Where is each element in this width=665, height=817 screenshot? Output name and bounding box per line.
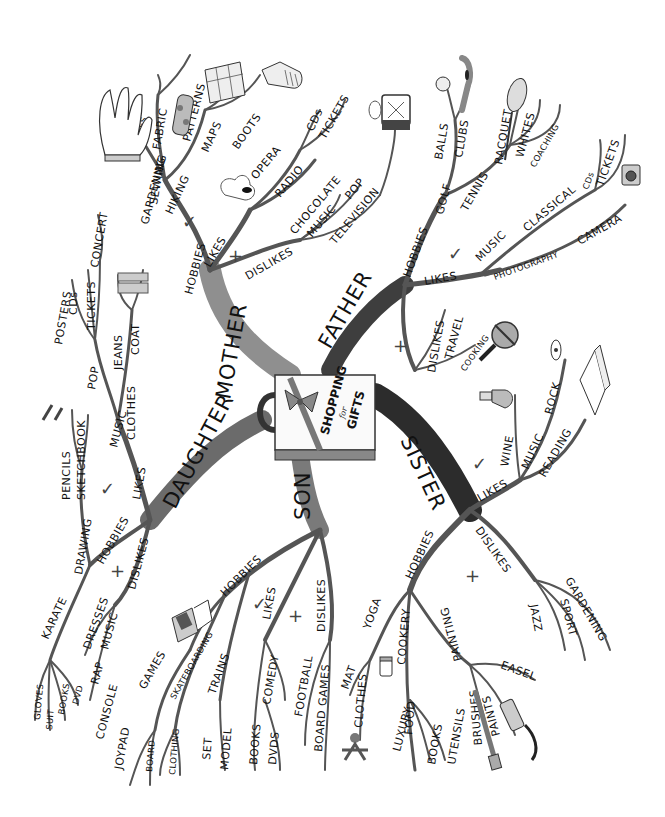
sister-labels: LIKES ✓ WINE MUSIC ROCK READING HOBBIES … — [339, 380, 610, 765]
mother-fabric: FABRIC — [150, 107, 170, 151]
wine-bottle-icon — [480, 390, 513, 408]
map-icon — [205, 62, 245, 103]
daughter-dislikes: DISLIKES — [125, 536, 151, 591]
sister-jazz: JAZZ — [527, 602, 545, 632]
father-hobbies: HOBBIES — [401, 225, 431, 279]
radio-speaker-icon — [221, 175, 255, 200]
son-model: MODEL — [218, 727, 235, 771]
daughter-clothes: CLOTHES — [125, 386, 138, 441]
sister-like-mark: ✓ — [472, 453, 487, 474]
gift-bag-base — [275, 450, 375, 460]
father-balls: BALLS — [432, 122, 451, 161]
father-dislike-mark: + — [393, 335, 408, 356]
mother-opera: OPERA — [248, 143, 283, 182]
cd-icon — [551, 340, 561, 360]
father-dislikes: DISLIKES — [425, 319, 447, 374]
boot-icon — [262, 62, 302, 88]
golf-ball-icon — [436, 77, 450, 91]
daughter-pop: POP — [85, 365, 102, 390]
father-music: MUSIC — [473, 228, 509, 264]
father-classical: CLASSICAL — [521, 183, 579, 235]
television-icon — [369, 95, 410, 130]
son-books: BOOKS — [247, 723, 264, 765]
sister-cookery: COOKERY — [395, 608, 413, 665]
sister-easel: EASEL — [499, 659, 539, 684]
mother-dislikes: DISLIKES — [243, 245, 296, 283]
mother-boots: BOOTS — [230, 111, 264, 152]
sister-dislike-mark: + — [465, 565, 480, 586]
son-console: CONSOLE — [93, 683, 120, 741]
book-icon — [580, 345, 610, 415]
daughter-tickets: TICKETS — [85, 281, 98, 331]
son-board: BOARD — [144, 739, 157, 772]
father-likes: LIKES — [423, 269, 458, 288]
daughter-coat: COAT — [129, 323, 142, 355]
center-gift-bag: SHOPPING for GIFTS — [260, 364, 375, 460]
mind-map: SHOPPING for GIFTS MOTHER DAUGHTER FATHE… — [0, 0, 665, 817]
jeans-icon — [118, 273, 148, 293]
spice-jar-icon — [380, 657, 392, 676]
yoga-figure-icon — [342, 733, 368, 760]
gardening-glove-icon — [100, 87, 152, 161]
son-comedy: COMEDY — [260, 654, 282, 706]
son-games: GAMES — [136, 649, 168, 692]
sister-food: FOOD — [402, 700, 418, 735]
daughter-concert: CONCERT — [88, 211, 111, 269]
daughter-jeans: JEANS — [112, 335, 125, 371]
father-tennis: TENNIS — [458, 169, 491, 214]
daughter-dislike-mark: + — [110, 560, 125, 581]
daughter-gloves: GLOVES — [32, 683, 45, 720]
son-joypad: JOYPAD — [112, 726, 132, 772]
branch-label-son: SON — [291, 471, 315, 520]
son-trains: TRAINS — [205, 651, 232, 697]
daughter-suit: SUIT — [44, 708, 56, 730]
father-tickets: TICKETS — [593, 138, 622, 189]
mother-dislike-mark: + — [228, 245, 243, 266]
daughter-pencils: PENCILS — [60, 451, 73, 500]
pencils-icon — [43, 405, 62, 420]
daughter-sketchbook: SKETCHBOOK — [75, 420, 88, 500]
daughter-drawing: DRAWING — [72, 517, 95, 575]
mother-like-mark: ✓ — [182, 211, 197, 232]
father-golf: GOLF — [433, 182, 454, 216]
daughter-hobbies: HOBBIES — [94, 514, 132, 566]
sister-reading: READING — [536, 426, 574, 479]
father-like-mark: ✓ — [448, 243, 463, 264]
camera-icon — [622, 165, 640, 185]
sister-wine: WINE — [498, 434, 516, 467]
paint-tube-icon — [499, 698, 536, 760]
son-set: SET — [200, 737, 215, 760]
sister-rock: ROCK — [542, 380, 563, 416]
father-camera: CAMERA — [575, 212, 624, 248]
daughter-rap: RAP — [88, 660, 106, 685]
sister-likes: LIKES — [475, 477, 510, 505]
son-like-mark: ✓ — [252, 593, 267, 614]
son-dislike-mark: + — [288, 605, 303, 626]
mother-maps: MAPS — [199, 119, 225, 154]
daughter-like-mark: ✓ — [100, 478, 115, 499]
daughter-cds: CDs — [67, 292, 80, 315]
sister-books: BOOKS — [425, 723, 445, 766]
sister-utensils: UTENSILS — [445, 707, 468, 766]
son-dislikes: DISLIKES — [315, 579, 328, 632]
golf-club-icon — [462, 58, 470, 110]
sister-yoga: YOGA — [360, 596, 384, 632]
